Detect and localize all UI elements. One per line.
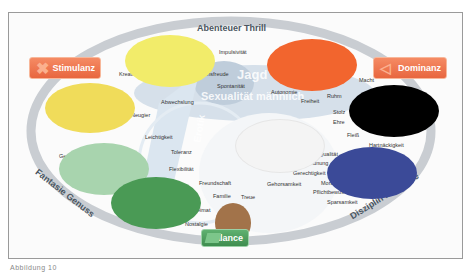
zone-label-jagd: Jagd: [237, 67, 267, 82]
term-abwechslung: Abwechslung: [161, 99, 194, 105]
triangle-left-icon: ◁: [380, 60, 391, 76]
stimulanz-button[interactable]: ✖ Stimulanz: [29, 57, 101, 79]
blob-green: [111, 177, 201, 229]
blob-yellow-left: [45, 83, 135, 133]
diagram-frame: Abenteuer Thrill Fantasie Genuss Diszipl…: [8, 12, 463, 259]
term-familie: Familie: [213, 193, 231, 199]
stimulanz-label: Stimulanz: [52, 63, 95, 73]
term-gehorsamkeit: Gehorsamkeit: [267, 181, 301, 187]
ring-label-top: Abenteuer Thrill: [197, 23, 266, 33]
cross-icon: ✖: [36, 59, 49, 78]
term-autonomie: Autonomie: [271, 89, 297, 95]
balance-button[interactable]: Balance: [201, 229, 249, 247]
blob-black: [349, 85, 439, 137]
term-macht: Macht: [359, 77, 374, 83]
term-freiheit: Freiheit: [301, 98, 319, 104]
term-gerechtigkeit: Gerechtigkeit: [293, 170, 325, 176]
term-nostalgie: Nostalgie: [185, 221, 208, 227]
term-leichtigkeit: Leichtigkeit: [145, 134, 173, 140]
term-impulsivitaet: Impulsivität: [219, 49, 247, 55]
term-ehre: Ehre: [333, 119, 345, 125]
dominanz-label: Dominanz: [398, 63, 441, 73]
term-freundschaft: Freundschaft: [199, 180, 231, 186]
balance-icon: [205, 233, 222, 243]
term-toleranz: Toleranz: [171, 149, 192, 155]
term-treue: Treue: [241, 194, 255, 200]
dominanz-button[interactable]: ◁ Dominanz: [373, 57, 447, 79]
term-fleiss: Fleiß: [347, 132, 359, 138]
term-flexibilitaet: Flexibilität: [169, 166, 193, 172]
blob-navy: [327, 147, 417, 199]
term-sparsamkeit: Sparsamkeit: [327, 199, 358, 205]
term-spontanitaet: Spontanität: [217, 83, 245, 89]
blob-orange: [267, 39, 357, 91]
figure-caption: Abbildung 10: [10, 264, 57, 271]
blob-white: [235, 119, 325, 173]
term-stolz: Stolz: [333, 109, 345, 115]
blob-yellow-top: [125, 35, 215, 87]
term-ruhm: Ruhm: [327, 93, 342, 99]
